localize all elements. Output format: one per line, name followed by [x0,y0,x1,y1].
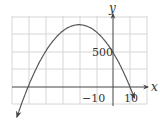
y-tick-500: 500 [92,46,113,59]
x-tick-neg10: −10 [82,92,105,105]
parabola-chart: y x 500 −10 10 [0,0,160,121]
x-axis-label: x [151,80,158,94]
parabola-polyline [17,25,134,117]
y-axis-label: y [108,1,116,15]
grid [12,16,147,104]
x-tick-10: 10 [124,92,138,105]
